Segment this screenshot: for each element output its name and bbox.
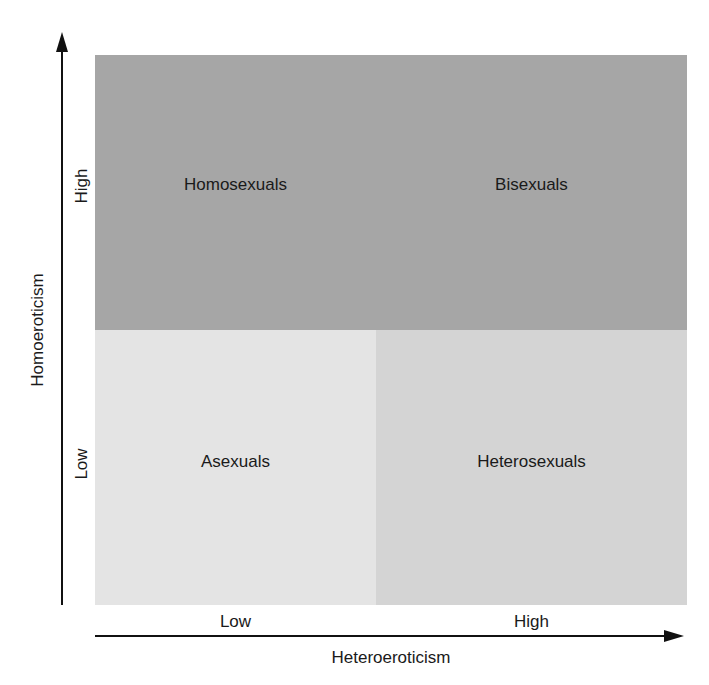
x-axis-title: Heteroeroticism bbox=[95, 648, 687, 668]
x-tick-high: High bbox=[376, 612, 687, 632]
x-tick-low: Low bbox=[95, 612, 376, 632]
axes bbox=[0, 0, 709, 685]
y-axis-title: Homoeroticism bbox=[28, 270, 48, 390]
y-tick-low: Low bbox=[72, 444, 92, 484]
y-tick-high: High bbox=[72, 166, 92, 206]
y-axis-arrow bbox=[56, 32, 68, 605]
